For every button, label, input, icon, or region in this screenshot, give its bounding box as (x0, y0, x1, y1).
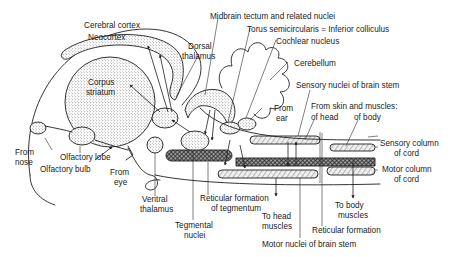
label-motor-nuclei-brain-stem: Motor nuclei of brain stem (262, 240, 356, 249)
label-corpus-striatum-line1: Corpus (88, 78, 114, 87)
dorsal-thalamus-nucleus (152, 108, 178, 128)
label-motor-column-line2: of cord (394, 175, 419, 184)
label-of-head: of head (311, 113, 338, 122)
label-from-skin-and-muscles: From skin and muscles: (311, 102, 397, 111)
eye-icon (126, 146, 133, 160)
label-from-eye-line2: eye (114, 178, 127, 187)
label-cochlear-nucleus: Cochlear nucleus (276, 37, 339, 46)
label-sensory-nuclei-brain-stem: Sensory nuclei of brain stem (296, 81, 399, 90)
label-to-head-muscles-line1: To head (262, 212, 291, 221)
motor-column-of-cord (327, 167, 375, 175)
label-corpus-striatum-line2: striatum (86, 88, 115, 97)
label-from-ear-line1: From (274, 104, 293, 113)
olfactory-bulb (30, 122, 46, 134)
label-midbrain-tectum: Midbrain tectum and related nuclei (210, 12, 335, 21)
label-motor-column-line1: Motor column (382, 165, 432, 174)
label-sensory-column-line2: of cord (394, 149, 419, 158)
label-to-head-muscles-line2: muscles (262, 222, 292, 231)
label-to-body-muscles-line2: muscles (338, 211, 368, 220)
label-olfactory-bulb: Olfactory bulb (40, 165, 91, 174)
label-reticular-tegmentum-line1: Reticular formation (200, 194, 269, 203)
label-ventral-thalamus-line2: thalamus (140, 205, 173, 214)
label-from-nose-line1: From (15, 148, 34, 157)
reticular-formation-bar (236, 158, 375, 166)
label-cerebellum: Cerebellum (294, 59, 336, 68)
label-cerebral-cortex: Cerebral cortex (84, 21, 140, 30)
midbrain-tectum-region (185, 89, 235, 126)
olfactory-lobe (69, 127, 95, 145)
label-reticular-tegmentum-line2: of tegmentum (211, 204, 261, 213)
reticular-formation-tegmentum (166, 150, 232, 161)
label-reticular-formation: Reticular formation (312, 226, 381, 235)
tegmental-nucleus (181, 131, 209, 151)
label-of-body: of body (354, 113, 381, 122)
label-torus-semicircularis: Torus semicircularis = Inferior collicul… (247, 25, 389, 34)
label-from-nose-line2: nose (15, 158, 33, 167)
motor-nuclei-brain-stem (218, 170, 318, 178)
label-sensory-column-line1: Sensory column (380, 139, 439, 148)
label-to-body-muscles-line1: To body (335, 201, 364, 210)
diagram-drawing (0, 0, 450, 257)
label-dorsal-thalamus-line1: Dorsal (188, 42, 212, 51)
brain-diagram: Cerebral cortex Neocortex Corpus striatu… (0, 0, 450, 257)
label-tegmental-nuclei-line1: Tegmental (175, 221, 213, 230)
olfactory-tract (45, 126, 72, 132)
label-dorsal-thalamus-line2: thalamus (182, 52, 215, 61)
label-neocortex: Neocortex (88, 33, 125, 42)
label-tegmental-nuclei-line2: nuclei (184, 231, 205, 240)
cochlear-nucleus (238, 118, 256, 130)
label-olfactory-lobe: Olfactory lobe (60, 153, 111, 162)
ventral-thalamus-nucleus (147, 137, 163, 153)
sensory-column-of-cord (330, 144, 375, 151)
label-from-eye-line1: From (110, 168, 129, 177)
label-from-ear-line2: ear (276, 114, 288, 123)
label-ventral-thalamus-line1: Ventral (142, 195, 168, 204)
